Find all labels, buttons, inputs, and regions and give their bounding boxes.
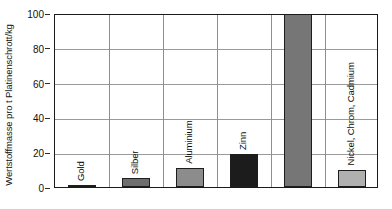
bar-group: Zinn <box>217 15 271 187</box>
bar-category-label: Gold <box>75 161 86 181</box>
bar-category-label: Nickel, Chrom, Cadmium <box>345 62 356 165</box>
y-axis-tick-label: 0 <box>38 183 44 194</box>
bar[interactable] <box>230 154 258 187</box>
bar[interactable] <box>122 178 150 187</box>
y-axis-tick-label: 80 <box>33 43 44 54</box>
bar-chart: Wertstoffmasse pro t Platinenschrott/kg … <box>0 0 392 209</box>
y-axis-tick-mark <box>45 118 50 119</box>
y-axis-tick-mark <box>45 48 50 49</box>
y-axis-tick-mark <box>45 14 50 15</box>
plot-area: GoldSilberAluminiumZinnKupfer (max.)Nick… <box>54 14 378 188</box>
bar-group: Silber <box>109 15 163 187</box>
bar[interactable] <box>284 14 312 187</box>
bar-group: Kupfer (max.) <box>271 15 325 187</box>
y-axis-title-text: Wertstoffmasse pro t Platinenschrott/kg <box>3 24 14 186</box>
y-axis-tick-label: 60 <box>33 78 44 89</box>
y-axis-title: Wertstoffmasse pro t Platinenschrott/kg <box>0 0 16 209</box>
bar-group: Nickel, Chrom, Cadmium <box>325 15 378 187</box>
y-axis-tick-label: 40 <box>33 113 44 124</box>
bar-category-label: Zinn <box>237 132 248 150</box>
bar-group: Gold <box>55 15 109 187</box>
y-axis-tick-label: 20 <box>33 148 44 159</box>
bar-category-label: Silber <box>129 151 140 175</box>
y-axis-tick-mark <box>45 153 50 154</box>
bar[interactable] <box>338 170 366 187</box>
bar[interactable] <box>68 185 96 187</box>
y-axis-tick-labels: 020406080100 <box>16 0 50 209</box>
bar-category-label: Aluminium <box>183 120 194 163</box>
y-axis-tick-mark <box>45 83 50 84</box>
bar[interactable] <box>176 168 204 187</box>
y-axis-tick-mark <box>45 188 50 189</box>
y-axis-tick-label: 100 <box>27 9 44 20</box>
bar-group: Aluminium <box>163 15 217 187</box>
